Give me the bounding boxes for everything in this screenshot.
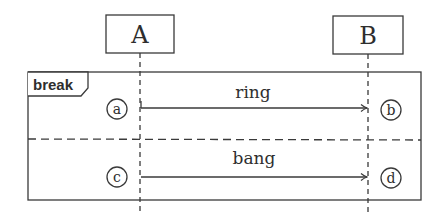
marker-d: d <box>381 168 401 188</box>
message-ring: ring <box>141 82 367 108</box>
marker-d-label: d <box>387 170 396 186</box>
participant-b: B <box>333 16 403 54</box>
participant-a: A <box>106 15 174 53</box>
marker-a: a <box>107 99 127 119</box>
marker-c: c <box>107 167 127 187</box>
marker-a-label: a <box>113 101 121 117</box>
participant-a-label: A <box>130 21 149 49</box>
fragment-section-divider <box>28 139 421 140</box>
marker-c-label: c <box>113 169 121 185</box>
participant-b-label: B <box>359 22 377 50</box>
fragment-operator-tab: break <box>28 72 88 96</box>
break-fragment-frame <box>28 72 421 200</box>
marker-b: b <box>381 100 401 120</box>
marker-b-label: b <box>387 102 396 118</box>
message-bang-label: bang <box>233 148 276 168</box>
operator-label: break <box>33 76 74 93</box>
message-ring-label: ring <box>235 82 271 102</box>
sequence-diagram: A B break ring a b bang c d <box>0 0 444 219</box>
message-bang: bang <box>141 148 367 177</box>
